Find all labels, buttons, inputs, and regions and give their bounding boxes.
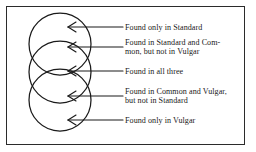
arrow-only-vulgar bbox=[68, 115, 123, 125]
callout-label-standard-and-common: Found in Standard and Com- mon, but not … bbox=[125, 38, 241, 56]
callout-label-common-and-vulgar: Found in Common and Vulgar, but not in S… bbox=[125, 87, 241, 105]
callout-label-only-standard: Found only in Standard bbox=[125, 23, 241, 32]
circle-vulgar bbox=[29, 69, 91, 131]
callout-label-all-three: Found in all three bbox=[125, 67, 241, 76]
venn-diagram-figure: Found only in Standard Found in Standard… bbox=[0, 0, 256, 152]
circle-common bbox=[29, 41, 91, 103]
arrow-common-and-vulgar bbox=[68, 91, 123, 101]
callout-label-only-vulgar: Found only in Vulgar bbox=[125, 116, 241, 125]
circle-standard bbox=[29, 13, 91, 75]
arrow-only-standard bbox=[68, 22, 123, 32]
arrow-standard-and-common bbox=[68, 42, 123, 52]
arrow-all-three bbox=[68, 66, 123, 76]
